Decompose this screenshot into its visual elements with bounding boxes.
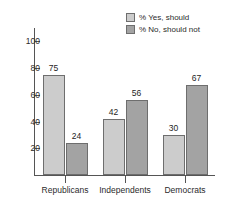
legend-label-yes: % Yes, should: [139, 13, 189, 22]
bar: [43, 75, 65, 175]
legend-item-yes: % Yes, should: [126, 12, 200, 22]
plot-area: 752442563067: [35, 28, 215, 175]
bar-value-label: 67: [183, 74, 211, 83]
y-tick-label: 20: [0, 144, 40, 153]
bar: [163, 135, 185, 175]
bar-value-label: 42: [100, 108, 128, 117]
bar-group: 7524: [35, 28, 95, 175]
bar-group: 4256: [95, 28, 155, 175]
bar: [126, 100, 148, 175]
x-tick-mark: [125, 176, 126, 183]
x-tick-mark: [65, 176, 66, 183]
bar-value-label: 75: [40, 64, 68, 73]
bar-group: 3067: [155, 28, 215, 175]
bar: [186, 85, 208, 175]
y-tick-label: 40: [0, 118, 40, 127]
y-tick-label: 80: [0, 64, 40, 73]
bar-chart: % Yes, should % No, should not 204060801…: [0, 0, 225, 204]
bar-value-label: 30: [160, 124, 188, 133]
bar-value-label: 24: [63, 132, 91, 141]
y-tick-label: 60: [0, 91, 40, 100]
legend-swatch-yes: [126, 13, 135, 22]
bar: [103, 119, 125, 175]
bar: [66, 143, 88, 175]
x-axis-label-democrats: Democrats: [145, 185, 225, 195]
bar-value-label: 56: [123, 89, 151, 98]
y-tick-label: 100: [0, 37, 40, 46]
x-tick-mark: [185, 176, 186, 183]
